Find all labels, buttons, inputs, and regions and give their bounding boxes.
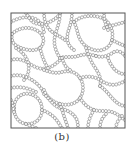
bead [53, 36, 56, 39]
bead [101, 55, 104, 58]
bead [63, 114, 66, 117]
bead [118, 22, 121, 25]
bead [25, 122, 28, 125]
bead [89, 107, 92, 110]
bead [60, 105, 63, 108]
bead [53, 42, 56, 45]
bead [38, 22, 41, 25]
bead [16, 74, 19, 77]
bead-chain [107, 56, 127, 75]
bead [76, 29, 79, 32]
bead-chain [99, 112, 108, 129]
network-diagram [0, 0, 134, 147]
bead [99, 16, 102, 19]
bead [108, 110, 111, 113]
bead [41, 108, 44, 111]
bead [81, 16, 84, 19]
bead [105, 82, 108, 85]
bead [73, 48, 76, 51]
bead [27, 61, 30, 64]
bead [25, 76, 28, 79]
bead [112, 24, 115, 27]
bead [59, 102, 62, 105]
bead [90, 48, 93, 51]
bead [12, 107, 15, 110]
figure-caption: (b) [0, 131, 124, 142]
bead [113, 50, 116, 53]
bead [70, 102, 73, 105]
bead [90, 14, 93, 17]
bead [85, 46, 88, 49]
bead [39, 49, 42, 52]
bead [43, 68, 46, 71]
bead [85, 75, 88, 78]
bead [74, 55, 77, 58]
bead [43, 110, 46, 113]
bead [30, 63, 33, 66]
bead [57, 24, 60, 27]
bead [71, 55, 74, 58]
bead [99, 123, 102, 126]
bead [97, 49, 100, 52]
bead [22, 16, 25, 19]
bead [28, 124, 31, 127]
bead-chain [39, 46, 50, 69]
bead [87, 123, 90, 126]
bead [19, 74, 22, 77]
bead [93, 108, 96, 111]
bead [26, 87, 29, 90]
bead [24, 26, 27, 29]
bead [121, 104, 124, 107]
bead-chain [10, 56, 64, 70]
bead [48, 70, 51, 73]
bead [61, 108, 64, 111]
bead [110, 52, 113, 55]
bead-chain [41, 108, 64, 129]
bead [111, 29, 114, 32]
bead [79, 76, 82, 79]
bead [12, 19, 15, 22]
bead [84, 15, 87, 18]
bead [103, 26, 106, 29]
bead [43, 88, 46, 91]
bead [87, 120, 90, 123]
bead [35, 22, 38, 25]
bead-chain [111, 38, 127, 47]
bead [56, 27, 59, 30]
bead-chain [66, 11, 76, 51]
bead [115, 83, 118, 86]
bead [66, 32, 69, 35]
bead [25, 92, 28, 95]
bead [73, 20, 76, 23]
bead [93, 15, 96, 18]
bead [16, 29, 19, 32]
bead [78, 17, 81, 20]
bead-chain [13, 92, 44, 126]
bead [103, 48, 106, 51]
bead [30, 27, 33, 30]
bead [76, 120, 79, 123]
bead [92, 54, 95, 57]
bead [13, 58, 16, 61]
bead [66, 35, 69, 38]
bead [82, 76, 85, 79]
bead-chains [10, 11, 127, 129]
bead [16, 58, 19, 61]
bead [22, 75, 25, 78]
bead [27, 67, 30, 70]
bead [27, 70, 30, 73]
bead [61, 70, 64, 73]
bead [67, 29, 70, 32]
bead [40, 105, 43, 108]
bead [93, 49, 96, 52]
bead [106, 25, 109, 28]
bead-chain [87, 108, 96, 129]
bead [69, 68, 72, 71]
bead [116, 120, 119, 123]
bead [64, 70, 67, 73]
bead [121, 81, 124, 84]
bead [77, 32, 80, 35]
bead [64, 103, 67, 106]
bead [19, 58, 22, 61]
polymer-network-figure: (b) [0, 0, 134, 147]
